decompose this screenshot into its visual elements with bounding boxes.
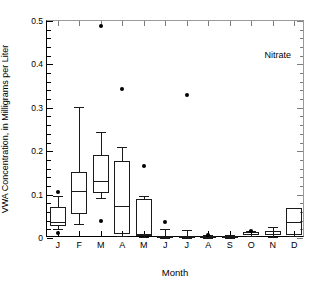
whisker-cap-upper [268,227,278,228]
y-tick-minor [47,47,51,48]
y-tick-minor [47,99,51,100]
whisker-cap-upper [182,230,192,231]
y-tick-minor [47,186,51,187]
whisker-cap-upper [160,229,170,230]
x-tick-top [294,21,295,26]
y-tick-right [300,177,304,178]
x-tick-label: M [140,241,148,250]
y-tick-right [300,143,304,144]
x-tick-label: O [248,241,255,250]
y-tick-right [300,116,304,117]
x-tick-top [208,21,209,26]
plot-area: 00.10.20.30.40.5 JFMAMJJASOND Nitrate [46,20,304,237]
whisker-cap-lower [53,229,63,230]
y-tick-right [300,169,304,170]
y-tick-minor [47,169,51,170]
y-tick-right [300,99,304,100]
y-tick-label: 0.1 [31,190,43,199]
median-line [157,236,173,237]
y-tick-right [300,82,304,83]
y-tick-minor [47,177,51,178]
x-tick-label: J [185,241,190,250]
y-tick-minor [47,160,51,161]
y-tick-right [300,160,304,161]
whisker-cap-lower [268,237,278,238]
y-tick-right [297,195,303,196]
median-line [50,222,66,223]
median-line [71,191,87,192]
whisker-cap-lower [289,236,299,237]
outlier-point [185,93,189,97]
y-tick-right [300,38,304,39]
y-tick-right [300,203,304,204]
y-tick-right [300,186,304,187]
y-tick-right [300,73,304,74]
x-tick-label: S [227,241,233,250]
median-line [200,237,216,238]
x-tick-top [165,21,166,26]
y-tick-minor [47,38,51,39]
y-tick-minor [47,90,51,91]
y-tick-minor [47,56,51,57]
x-tick-label: J [56,241,61,250]
y-tick-major [47,64,53,65]
whisker-cap-upper [117,147,127,148]
x-tick-top [230,21,231,26]
median-line [286,222,302,223]
y-tick-minor [47,125,51,126]
box-iqr [50,207,66,226]
x-tick-label: N [270,241,277,250]
whisker-cap-lower [246,236,256,237]
median-line [243,234,259,235]
outlier-point [142,164,146,168]
y-tick-minor [47,116,51,117]
whisker-upper [58,196,59,207]
x-tick-top [144,21,145,26]
outlier-point [56,231,60,235]
x-tick-top [58,21,59,26]
box-iqr [114,161,130,234]
whisker-cap-upper [139,196,149,197]
y-tick-minor [47,203,51,204]
whisker-cap-upper [74,107,84,108]
whisker-cap-lower [117,236,127,237]
y-tick-label: 0.4 [31,60,43,69]
y-tick-right [297,21,303,22]
whisker-lower [79,214,80,224]
x-tick-label: D [291,241,298,250]
y-tick-minor [47,82,51,83]
outlier-point [206,233,210,237]
y-tick-label: 0.5 [31,17,43,26]
median-line [222,237,238,238]
whisker-cap-lower [96,198,106,199]
box-iqr [71,172,87,214]
x-tick-top [122,21,123,26]
whisker-upper [101,132,102,155]
outlier-point [56,190,60,194]
x-axis-title: Month [162,268,188,278]
y-tick-major [47,108,53,109]
y-tick-minor [47,229,51,230]
whisker-cap-lower [74,224,84,225]
median-line [136,235,152,236]
y-tick-right [297,64,303,65]
x-tick-top [273,21,274,26]
x-tick [101,231,102,236]
x-tick-label: F [77,241,83,250]
whisker-upper [122,147,123,161]
x-tick-top [79,21,80,26]
outlier-point [120,87,124,91]
box-iqr [136,199,152,235]
series-annotation-label: Nitrate [264,51,291,60]
outlier-point [99,219,103,223]
whisker-cap-upper [53,196,63,197]
y-tick-label: 0 [38,234,43,243]
x-tick-label: J [163,241,168,250]
y-tick-right [297,151,303,152]
outlier-point [99,24,103,28]
y-tick-minor [47,30,51,31]
y-tick-label: 0.3 [31,104,43,113]
x-tick-top [187,21,188,26]
median-line [179,237,195,238]
median-line [114,206,130,207]
